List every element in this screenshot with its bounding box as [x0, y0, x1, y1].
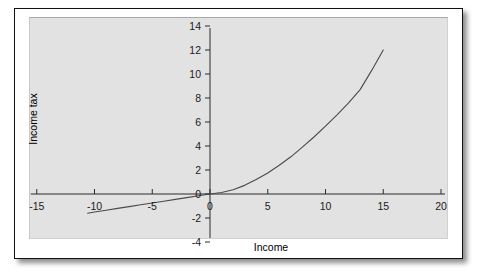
x-tick-label: 15	[377, 200, 389, 212]
curve-group	[88, 50, 384, 213]
x-tick-label: 20	[435, 200, 447, 212]
screenshot-root: -15-10-505101520-4-202468101214 Income I…	[0, 0, 481, 279]
y-tick-label: 10	[189, 68, 201, 80]
y-tick-label: 4	[195, 140, 201, 152]
y-tick-label: 14	[189, 20, 201, 32]
x-axis-title: Income	[211, 241, 331, 253]
data-line	[88, 50, 384, 213]
x-tick-label: -10	[87, 200, 102, 212]
y-axis-title: Income tax	[27, 59, 39, 179]
x-tick-label: -5	[148, 200, 157, 212]
y-tick-label: 12	[189, 44, 201, 56]
tick-labels-group: -15-10-505101520-4-202468101214	[29, 20, 447, 248]
y-tick-label: 6	[195, 116, 201, 128]
y-tick-label: 8	[195, 92, 201, 104]
y-tick-label: 0	[195, 188, 201, 200]
x-tick-label: -15	[29, 200, 44, 212]
y-tick-label: 2	[195, 164, 201, 176]
x-tick-label: 10	[320, 200, 332, 212]
figure-card: -15-10-505101520-4-202468101214 Income I…	[14, 8, 463, 259]
chart-svg: -15-10-505101520-4-202468101214	[15, 9, 464, 260]
x-tick-label: 5	[265, 200, 271, 212]
x-tick-label: 0	[207, 200, 213, 212]
y-tick-label: -2	[192, 212, 201, 224]
y-tick-label: -4	[192, 236, 201, 248]
